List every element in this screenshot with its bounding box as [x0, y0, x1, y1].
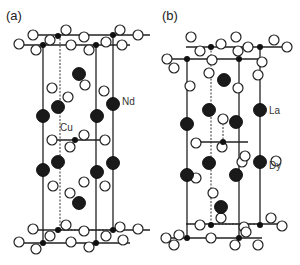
oxygen-atom — [204, 68, 214, 78]
oxygen-atom — [84, 242, 94, 252]
oxygen-atom — [269, 35, 279, 45]
copper-atom — [93, 240, 99, 246]
copper-atom — [236, 235, 242, 241]
oxygen-atom — [216, 39, 226, 49]
panel-b-structure — [161, 32, 292, 250]
oxygen-atom — [162, 54, 172, 64]
oxygen-atom — [48, 181, 58, 191]
oxygen-atom — [207, 55, 217, 65]
oxygen-atom — [28, 224, 38, 234]
oxygen-atom — [100, 135, 110, 145]
oxygen-atom — [186, 32, 196, 42]
rare-earth-atom — [37, 164, 50, 177]
oxygen-atom — [31, 45, 41, 55]
oxygen-atom — [61, 220, 71, 230]
oxygen-atom — [241, 227, 251, 237]
rare-earth-atom — [203, 157, 216, 170]
oxygen-atom — [133, 30, 143, 40]
rare-earth-atom — [254, 156, 267, 169]
oxygen-atom — [266, 213, 276, 223]
oxygen-atom — [28, 30, 38, 40]
oxygen-atom — [230, 240, 240, 250]
copper-atom — [220, 139, 226, 145]
oxygen-atom — [65, 142, 75, 152]
rare-earth-atom — [73, 68, 86, 81]
rare-earth-atom — [218, 74, 231, 87]
copper-atom — [93, 42, 99, 48]
panel-a-structure — [14, 25, 150, 254]
oxygen-atom — [45, 231, 55, 241]
copper-atom — [72, 137, 78, 143]
oxygen-atom — [233, 46, 243, 56]
oxygen-atom — [14, 39, 24, 49]
rare-earth-atom — [215, 201, 228, 214]
copper-atom — [184, 56, 190, 62]
oxygen-atom — [218, 114, 228, 124]
oxygen-atom — [100, 181, 110, 191]
oxygen-atom — [282, 42, 292, 52]
oxygen-atom — [66, 40, 76, 50]
oxygen-atom — [174, 230, 184, 240]
panel-b-label: (b) — [162, 8, 178, 23]
rare-earth-atom — [91, 166, 104, 179]
copper-atom — [110, 32, 116, 38]
oxygen-atom — [169, 63, 179, 73]
oxygen-atom — [65, 188, 75, 198]
la-atom-label: La — [269, 105, 280, 116]
copper-atom — [184, 235, 190, 241]
rare-earth-atom — [37, 110, 50, 123]
oxygen-atom — [101, 231, 111, 241]
rare-earth-atom — [230, 116, 243, 129]
oxygen-atom — [61, 25, 71, 35]
rare-earth-atom — [91, 110, 104, 123]
rare-earth-atom — [52, 101, 65, 114]
oxygen-atom — [206, 233, 216, 243]
rare-earth-atom — [107, 157, 120, 170]
copper-atom — [257, 44, 263, 50]
oxygen-atom — [45, 35, 55, 45]
rare-earth-atom — [181, 169, 194, 182]
crystal-diagram-canvas — [0, 0, 300, 265]
cu-atom-label: Cu — [60, 122, 73, 133]
copper-atom — [40, 42, 46, 48]
oxygen-atom — [169, 240, 179, 250]
oxygen-atom — [99, 86, 109, 96]
oxygen-atom — [277, 221, 287, 231]
oxygen-atom — [101, 37, 111, 47]
oxygen-atom — [233, 83, 243, 93]
oxygen-atom — [31, 244, 41, 254]
oxygen-atom — [253, 240, 263, 250]
nd-atom-label: Nd — [122, 96, 135, 107]
oxygen-atom — [79, 32, 89, 42]
oxygen-atom — [14, 237, 24, 247]
oxygen-atom — [208, 188, 218, 198]
oxygen-atom — [195, 220, 205, 230]
oxygen-atom — [195, 46, 205, 56]
oxygen-atom — [79, 177, 89, 187]
oxygen-atom — [47, 83, 57, 93]
oxygen-atom — [133, 224, 143, 234]
oxygen-atom — [161, 233, 171, 243]
oxygen-atom — [243, 42, 253, 52]
oxygen-atom — [84, 45, 94, 55]
rare-earth-atom — [203, 104, 216, 117]
oxygen-atom — [257, 57, 267, 67]
oxygen-atom — [185, 81, 195, 91]
oxygen-atom — [115, 222, 125, 232]
panel-a-label: (a) — [6, 8, 22, 23]
oxygen-atom — [80, 80, 90, 90]
rare-earth-atom — [181, 118, 194, 131]
rare-earth-atom — [107, 98, 120, 111]
oxygen-atom — [47, 135, 57, 145]
copper-atom — [236, 56, 242, 62]
dy-atom-label: Dy — [269, 160, 281, 171]
copper-atom — [55, 227, 61, 233]
oxygen-atom — [66, 237, 76, 247]
oxygen-atom — [79, 226, 89, 236]
rare-earth-atom — [254, 104, 267, 117]
oxygen-atom — [191, 138, 201, 148]
rare-earth-atom — [52, 156, 65, 169]
oxygen-atom — [216, 213, 226, 223]
rare-earth-atom — [73, 197, 86, 210]
copper-atom — [55, 33, 61, 39]
